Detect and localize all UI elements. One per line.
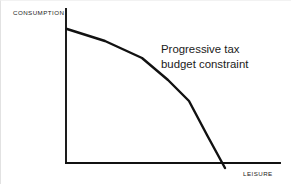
budget-constraint-plot	[0, 0, 291, 184]
curve-annotation-line-1: Progressive tax	[161, 42, 248, 57]
figure-container: CONSUMPTION LEISURE Progressive tax budg…	[0, 0, 291, 184]
y-axis-label: CONSUMPTION	[13, 10, 64, 16]
curve-annotation-line-2: budget constraint	[161, 57, 248, 72]
curve-annotation: Progressive tax budget constraint	[161, 42, 248, 71]
x-axis-label: LEISURE	[243, 171, 273, 177]
